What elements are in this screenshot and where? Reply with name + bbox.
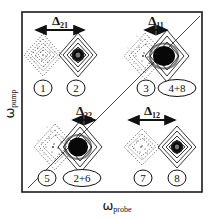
peak-label-4-8: 4+8: [158, 80, 196, 97]
peak-label-5-text: 5: [44, 172, 50, 184]
peak-8-core-inner: [175, 145, 179, 150]
peak-2-core-inner: [76, 52, 81, 57]
peak-label-7-text: 7: [140, 172, 146, 184]
x-axis-subscript: probe: [113, 205, 131, 214]
peak-label-2-6: 2+6: [63, 170, 101, 187]
two-d-spectrum-figure: Δ21 Δ11 Δ22 Δ12 1 2 3 4+8 5: [0, 0, 214, 220]
x-axis-omega-symbol: ω: [102, 198, 113, 213]
peak-label-4-8-text: 4+8: [168, 82, 186, 94]
peak-2-6-core: [68, 138, 88, 157]
y-axis-omega-symbol: ω: [2, 108, 17, 119]
peak-label-8: 8: [168, 170, 186, 186]
peak-label-2-text: 2: [73, 82, 79, 94]
y-axis-label: ωpump: [2, 68, 18, 140]
peak-label-7: 7: [134, 170, 152, 186]
y-axis-subscript: pump: [9, 89, 18, 107]
peak-label-2-6-text: 2+6: [73, 172, 91, 184]
peak-4-8-core: [153, 46, 175, 66]
peak-label-5: 5: [38, 170, 56, 186]
peak-label-2: 2: [67, 80, 85, 96]
peak-label-8-text: 8: [174, 172, 180, 184]
peak-label-3: 3: [137, 80, 155, 96]
peak-label-3-text: 3: [143, 82, 149, 94]
x-axis-label: ωprobe: [72, 198, 162, 214]
peak-label-1-text: 1: [40, 82, 46, 94]
peak-label-1: 1: [34, 80, 52, 96]
